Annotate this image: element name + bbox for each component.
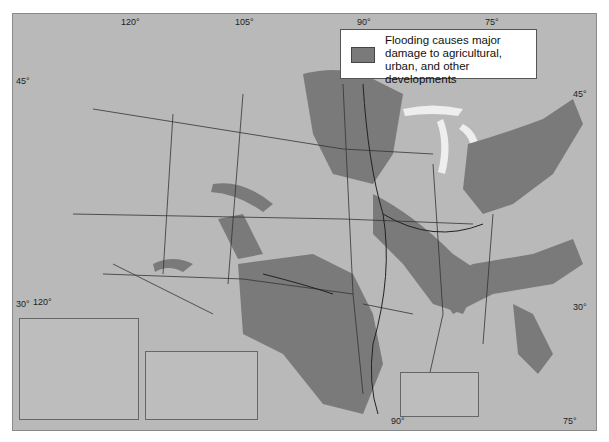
latitude-label-30-left: 30° xyxy=(16,299,30,309)
latitude-label-30-right: 30° xyxy=(573,302,587,312)
flood-swatch xyxy=(351,47,375,63)
latitude-label-45-left: 45° xyxy=(16,76,30,86)
longitude-label-105: 105° xyxy=(235,17,254,27)
longitude-label-90: 90° xyxy=(357,17,371,27)
longitude-label-75: 75° xyxy=(485,17,499,27)
latitude-label-45-right: 45° xyxy=(573,89,587,99)
longitude-label-120: 120° xyxy=(121,17,140,27)
longitude-label-90-bottom: 90° xyxy=(391,416,405,426)
inset-longitude-label: 120° xyxy=(33,297,52,307)
legend-label: Flooding causes major damage to agricult… xyxy=(385,34,535,86)
map-legend: Flooding causes major damage to agricult… xyxy=(340,29,537,79)
hawaii-inset xyxy=(145,351,258,420)
longitude-label-75-bottom: 75° xyxy=(563,416,577,426)
puerto-rico-inset xyxy=(400,372,479,417)
alaska-inset xyxy=(19,318,139,420)
